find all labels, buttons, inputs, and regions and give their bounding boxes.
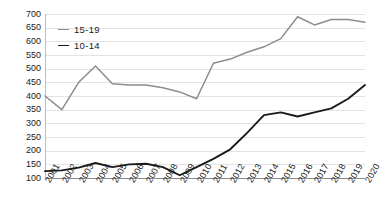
legend-item-10-14: 10-14 <box>58 38 100 52</box>
y-axis-tick-labels: 100150200250300350400450500550600650700 <box>0 0 41 224</box>
x-tick-2020: 2020 <box>364 162 382 184</box>
y-tick-100: 100 <box>1 174 41 183</box>
chart-legend: 15-19 10-14 <box>58 22 100 54</box>
legend-label-15-19: 15-19 <box>74 24 100 35</box>
y-tick-550: 550 <box>1 51 41 60</box>
y-tick-300: 300 <box>1 119 41 128</box>
legend-label-10-14: 10-14 <box>74 40 100 51</box>
y-tick-150: 150 <box>1 160 41 169</box>
y-tick-600: 600 <box>1 37 41 46</box>
y-tick-200: 200 <box>1 146 41 155</box>
y-tick-400: 400 <box>1 92 41 101</box>
legend-swatch-15-19 <box>58 29 69 30</box>
y-tick-500: 500 <box>1 64 41 73</box>
y-tick-450: 450 <box>1 78 41 87</box>
x-axis-tick-labels: 2001200220032004200520062007200820092010… <box>45 180 365 224</box>
y-tick-350: 350 <box>1 105 41 114</box>
legend-item-15-19: 15-19 <box>58 22 100 36</box>
y-tick-700: 700 <box>1 10 41 19</box>
legend-swatch-10-14 <box>58 45 69 46</box>
y-tick-650: 650 <box>1 23 41 32</box>
y-tick-250: 250 <box>1 133 41 142</box>
